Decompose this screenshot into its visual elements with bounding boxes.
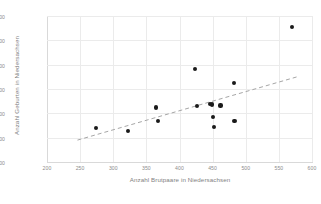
y-tick-label: 60000 xyxy=(0,160,5,166)
x-tick-label: 300 xyxy=(98,165,128,171)
data-point xyxy=(193,67,197,71)
scatter-chart: 90000 85000 80000 75000 70000 65000 6000… xyxy=(0,0,321,204)
x-axis-title: Anzahl Brutpaare in Niedersachsen xyxy=(47,176,313,183)
gridline-vertical xyxy=(180,16,181,162)
x-tick-label: 450 xyxy=(198,165,228,171)
data-point xyxy=(212,125,216,129)
x-tick-label: 350 xyxy=(131,165,161,171)
data-point xyxy=(126,129,130,133)
y-tick-label: 85000 xyxy=(0,38,5,44)
data-point xyxy=(232,81,236,85)
gridline-vertical xyxy=(146,16,147,162)
gridline-vertical xyxy=(279,16,280,162)
gridline-vertical xyxy=(246,16,247,162)
x-tick-label: 550 xyxy=(264,165,294,171)
y-tick-label: 80000 xyxy=(0,63,5,69)
y-tick-label: 65000 xyxy=(0,136,5,142)
data-point xyxy=(156,119,160,123)
gridline-vertical xyxy=(213,16,214,162)
plot-area xyxy=(47,16,312,162)
gridline-vertical xyxy=(312,16,313,162)
data-point xyxy=(232,119,236,123)
x-axis-line xyxy=(47,162,313,163)
gridline-vertical xyxy=(80,16,81,162)
y-tick-label: 70000 xyxy=(0,111,5,117)
data-point xyxy=(210,102,214,106)
y-axis-title: Anzahl Geburten in Niedersachsen xyxy=(13,16,20,156)
y-tick-label: 90000 xyxy=(0,14,5,20)
x-tick-label: 200 xyxy=(32,165,62,171)
data-point xyxy=(290,25,294,29)
x-tick-label: 500 xyxy=(231,165,261,171)
x-tick-label: 400 xyxy=(165,165,195,171)
data-point xyxy=(94,126,98,130)
x-tick-label: 600 xyxy=(297,165,321,171)
data-point xyxy=(211,115,215,119)
data-point xyxy=(195,104,199,108)
data-point xyxy=(154,105,158,109)
y-tick-label: 75000 xyxy=(0,87,5,93)
gridline-vertical xyxy=(113,16,114,162)
data-point xyxy=(218,103,222,107)
x-tick-label: 250 xyxy=(65,165,95,171)
